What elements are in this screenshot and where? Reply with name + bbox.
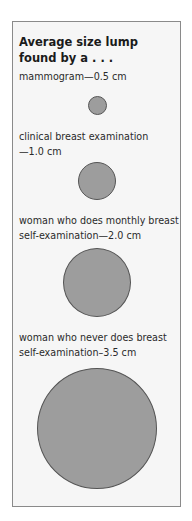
label-line: —1.0 cm [19,144,184,159]
label-mammogram: mammogram—0.5 cm [19,69,184,84]
label-line: woman who does monthly breast [19,213,184,228]
title-line-1: Average size lump [19,34,179,50]
label-monthly-self-exam: woman who does monthly breast self-exami… [19,213,184,243]
label-line: woman who never does breast [19,330,184,345]
lump-circle-never-self-exam [37,368,157,489]
lump-circle-clinical-exam [78,162,116,200]
label-never-self-exam: woman who never does breast self-examina… [19,330,184,360]
label-line: mammogram—0.5 cm [19,69,184,84]
title-line-2: found by a . . . [19,50,179,66]
lump-circle-monthly-self-exam [63,248,131,317]
label-line: self-examination–3.5 cm [19,345,184,360]
infographic-title: Average size lump found by a . . . [19,34,179,66]
label-line: self-examination—2.0 cm [19,228,184,243]
label-clinical-exam: clinical breast examination —1.0 cm [19,129,184,159]
lump-circle-mammogram [88,96,107,115]
label-line: clinical breast examination [19,129,184,144]
